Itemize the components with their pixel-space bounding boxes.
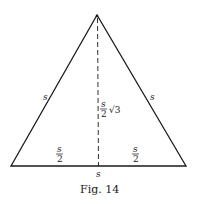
right-half-denominator: 2	[133, 154, 139, 164]
apex-point	[96, 15, 99, 18]
altitude-denominator: 2	[101, 109, 107, 119]
left-half-numerator: s	[57, 144, 62, 154]
triangle-diagram: s s s 2 √3 s 2 s 2 s Fig. 14	[0, 0, 199, 204]
equilateral-triangle	[11, 15, 186, 166]
base-label: s	[96, 169, 101, 179]
altitude-label: s 2 √3	[100, 99, 121, 119]
altitude-numerator: s	[101, 99, 106, 109]
left-half-denominator: 2	[57, 154, 63, 164]
right-half-base-label: s 2	[132, 144, 139, 164]
altitude-radical: √3	[109, 105, 121, 115]
figure-caption: Fig. 14	[80, 183, 119, 196]
altitude-dashed-line	[98, 18, 99, 166]
right-half-numerator: s	[133, 144, 138, 154]
right-side-label: s	[150, 92, 155, 102]
left-side-label: s	[43, 92, 48, 102]
left-half-base-label: s 2	[56, 144, 63, 164]
